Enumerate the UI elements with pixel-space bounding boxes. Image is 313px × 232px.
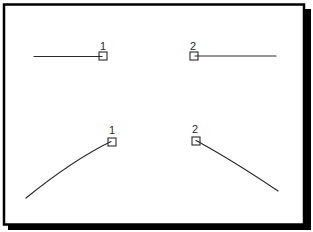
segment-2-label: 2 [190,40,196,52]
curve-1-label: 1 [109,124,115,136]
curve-2-label: 2 [192,123,198,135]
figure-page: 1 2 1 2 [0,0,313,232]
frame-border [4,5,304,225]
figure-canvas: 1 2 1 2 [0,0,313,232]
segment-1-label: 1 [100,40,106,52]
